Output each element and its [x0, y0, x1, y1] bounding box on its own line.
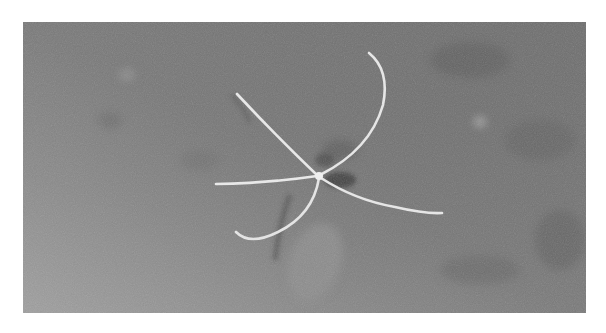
seafloor-photo [23, 22, 586, 313]
star-disk [315, 172, 323, 180]
photo-canvas [23, 22, 586, 313]
